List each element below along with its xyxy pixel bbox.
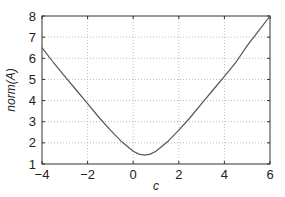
y-tick-label: 7 [29,30,36,45]
y-tick-label: 1 [29,157,36,172]
x-tick-label: 0 [130,167,137,182]
x-tick-label: −2 [80,167,95,182]
y-tick-label: 5 [29,72,36,87]
y-tick-label: 4 [29,93,36,108]
y-tick-label: 8 [29,9,36,24]
y-axis-label: norm(A) [4,68,18,111]
x-tick-label: 4 [221,167,228,182]
line-chart: −4−2024612345678 c norm(A) [0,0,285,197]
x-tick-label: 6 [266,167,273,182]
y-tick-label: 6 [29,51,36,66]
y-tick-label: 2 [29,135,36,150]
y-tick-label: 3 [29,114,36,129]
x-tick-label: −4 [35,167,50,182]
x-tick-label: 2 [175,167,182,182]
x-axis-label: c [153,179,159,193]
axis-ticks: −4−2024612345678 [29,9,274,183]
